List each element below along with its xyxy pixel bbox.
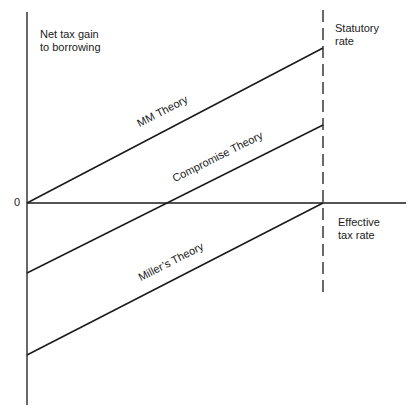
x-axis-label-line1: Effective <box>338 216 380 229</box>
x-axis-label-line2: tax rate <box>338 229 380 242</box>
origin-zero-label: 0 <box>14 196 20 209</box>
statutory-label-line1: Statutory <box>335 22 379 35</box>
y-axis-label-line2: to borrowing <box>40 41 101 54</box>
tax-gain-diagram <box>0 0 417 415</box>
statutory-rate-label: Statutory rate <box>335 22 379 48</box>
x-axis-label: Effective tax rate <box>338 216 380 242</box>
y-axis-label: Net tax gain to borrowing <box>40 28 101 54</box>
y-axis-label-line1: Net tax gain <box>40 28 101 41</box>
compromise-theory-line <box>27 125 323 273</box>
statutory-label-line2: rate <box>335 35 379 48</box>
millers-theory-line <box>27 203 323 355</box>
